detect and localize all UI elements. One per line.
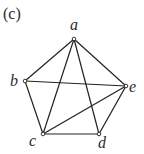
vertex-label-c: c <box>29 132 36 149</box>
vertex-b <box>23 79 27 83</box>
edge-b-e <box>25 81 126 86</box>
vertex-label-a: a <box>70 16 78 33</box>
graph-diagram: (c) abcde <box>0 0 144 154</box>
vertex-c <box>41 132 45 136</box>
vertex-label-e: e <box>129 78 136 95</box>
edge-a-e <box>74 39 126 86</box>
vertex-e <box>124 84 128 88</box>
vertex-label-b: b <box>10 72 18 89</box>
edge-a-d <box>74 39 99 134</box>
vertex-label-d: d <box>98 134 107 151</box>
edge-a-c <box>43 39 74 134</box>
edges <box>25 39 126 134</box>
vertex-a <box>72 37 76 41</box>
edge-b-c <box>25 81 43 134</box>
panel-label: (c) <box>3 5 21 23</box>
edge-c-e <box>43 86 126 134</box>
